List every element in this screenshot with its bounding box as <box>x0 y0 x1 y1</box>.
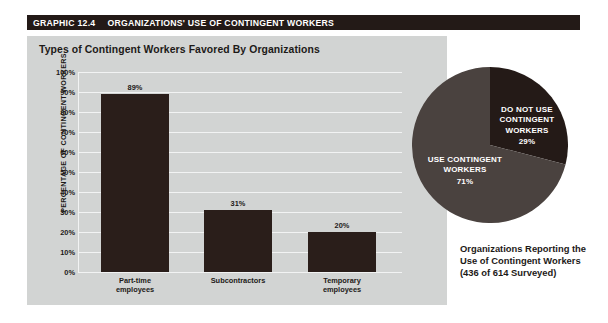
pie-slice-text-use: USE CONTINGENT WORKERS <box>428 155 502 174</box>
x-axis-category-label: Part-timeemployees <box>92 276 178 295</box>
pie-slice-text-do-not-use: DO NOT USE CONTINGENT WORKERS <box>500 105 555 135</box>
y-axis-tick-label: 100% <box>56 68 75 77</box>
bar-value-label: 89% <box>128 83 143 92</box>
y-axis-tick-label: 80% <box>60 108 75 117</box>
gridline <box>79 92 402 93</box>
pie-slice-value-use: 71% <box>422 177 508 187</box>
bar: 20%Temporaryemployees <box>308 232 376 272</box>
x-axis-category-label: Subcontractors <box>195 276 281 285</box>
gridline <box>79 72 402 73</box>
graphic-title: ORGANIZATIONS' USE OF CONTINGENT WORKERS <box>107 18 334 28</box>
y-axis-tick-label: 40% <box>60 188 75 197</box>
bar: 31%Subcontractors <box>204 210 272 272</box>
bar-chart-title: Types of Contingent Workers Favored By O… <box>39 44 320 55</box>
bar-value-label: 31% <box>231 199 246 208</box>
y-axis-tick-label: 0% <box>64 268 75 277</box>
pie-chart-caption: Organizations Reporting the Use of Conti… <box>460 243 600 280</box>
pie-slice-value-do-not-use: 29% <box>490 137 564 147</box>
bar-plot-area: 0%10%20%30%40%50%60%70%80%90%100% 89%Par… <box>78 72 402 273</box>
pie-chart: DO NOT USE CONTINGENT WORKERS 29% USE CO… <box>412 67 568 223</box>
y-axis-tick-label: 70% <box>60 128 75 137</box>
pie-slice-label-use: USE CONTINGENT WORKERS 71% <box>422 155 508 187</box>
bar: 89%Part-timeemployees <box>101 94 169 272</box>
bar-chart-panel: Types of Contingent Workers Favored By O… <box>27 36 447 305</box>
pie-slice-label-do-not-use: DO NOT USE CONTINGENT WORKERS 29% <box>490 105 564 148</box>
bar-value-label: 20% <box>335 221 350 230</box>
y-axis-tick-label: 20% <box>60 228 75 237</box>
y-axis-tick-label: 90% <box>60 88 75 97</box>
graphic-header-bar: GRAPHIC 12.4 ORGANIZATIONS' USE OF CONTI… <box>27 15 580 30</box>
y-axis-tick-label: 10% <box>60 248 75 257</box>
y-axis-tick-label: 30% <box>60 208 75 217</box>
y-axis-tick-label: 60% <box>60 148 75 157</box>
graphic-number: GRAPHIC 12.4 <box>33 18 95 28</box>
x-axis-category-label: Temporaryemployees <box>299 276 385 295</box>
y-axis-tick-label: 50% <box>60 168 75 177</box>
